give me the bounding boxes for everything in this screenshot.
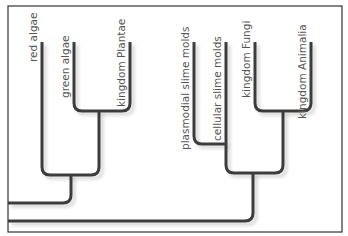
label-red-algae: red algae: [27, 13, 39, 62]
cladogram: red algae green algae kingdom Plantae pl…: [0, 0, 348, 236]
label-kingdom-animalia: kingdom Animalia: [296, 24, 308, 119]
label-cellular-slime-molds: cellular slime molds: [211, 36, 223, 141]
branch-root: [8, 173, 253, 221]
label-plasmodial-slime-molds: plasmodial slime molds: [179, 27, 191, 150]
label-kingdom-fungi: kingdom Fungi: [240, 21, 252, 98]
label-green-algae: green algae: [59, 35, 71, 98]
label-kingdom-plantae: kingdom Plantae: [115, 19, 127, 107]
